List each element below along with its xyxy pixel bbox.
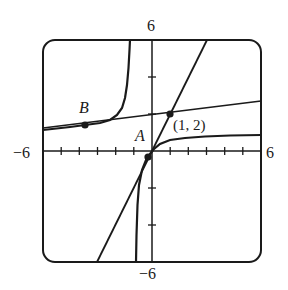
y-min-label: −6 <box>139 266 156 282</box>
point-1-2-label: (1, 2) <box>173 118 206 133</box>
point-b-label: B <box>79 100 89 116</box>
graph-canvas <box>0 0 288 290</box>
y-max-label: 6 <box>147 18 155 34</box>
x-max-label: 6 <box>266 145 274 161</box>
point-a-label: A <box>135 128 145 144</box>
point-a-marker <box>144 153 151 160</box>
x-min-label: −6 <box>13 145 30 161</box>
curve-left-branch <box>43 40 130 130</box>
point-b-marker <box>81 121 88 128</box>
